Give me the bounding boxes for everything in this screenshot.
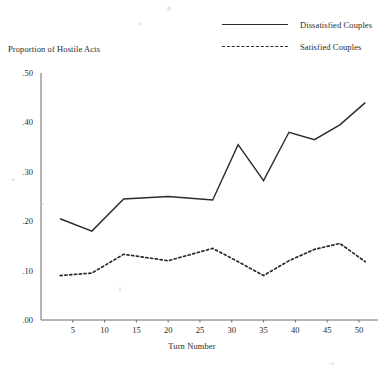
series-line-satisfied — [60, 243, 365, 275]
y-tick-label-group: .00.10.20.30.40.50 — [22, 68, 33, 325]
x-tick-label: 10 — [100, 325, 109, 335]
axis-lines — [41, 73, 378, 320]
x-tick-label: 50 — [355, 325, 364, 335]
series-line-dissatisfied — [60, 103, 365, 231]
chart-figure: Dissatisfied Couples Satisfied Couples P… — [0, 0, 384, 371]
y-tick-label: .20 — [22, 216, 33, 226]
y-tick-label: .00 — [22, 315, 33, 325]
y-tick-label: .30 — [22, 167, 33, 177]
x-tick-label: 40 — [291, 325, 300, 335]
x-tick-label: 35 — [259, 325, 268, 335]
x-tick-label-group: 5101520253035404550 — [71, 325, 364, 335]
x-tick-label: 30 — [228, 325, 237, 335]
y-tick-label: .50 — [22, 68, 33, 78]
plot-area: .00.10.20.30.40.50 5101520253035404550 — [0, 0, 384, 371]
x-tick-label: 20 — [164, 325, 173, 335]
x-axis-title: Turn Number — [0, 341, 384, 351]
x-tick-label: 25 — [196, 325, 205, 335]
y-tick-label: .10 — [22, 266, 33, 276]
y-tick-label: .40 — [22, 117, 33, 127]
x-tick-label: 15 — [132, 325, 141, 335]
x-tick-label: 5 — [71, 325, 75, 335]
x-tick-label: 45 — [323, 325, 332, 335]
